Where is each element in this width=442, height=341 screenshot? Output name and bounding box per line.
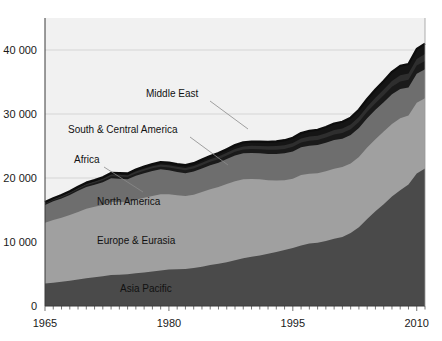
y-tick-label: 20 000 [3,172,37,184]
y-tick-label: 10 000 [3,236,37,248]
series-label-asia-pacific: Asia Pacific [120,283,172,294]
series-label-africa: Africa [74,154,100,165]
series-label-europe-eurasia: Europe & Eurasia [97,235,176,246]
x-tick-label: 2010 [404,317,428,329]
x-tick-label: 1965 [33,317,57,329]
series-label-middle-east: Middle East [146,88,198,99]
series-label-south-central-america: South & Central America [68,124,178,135]
y-tick-label: 0 [31,300,37,312]
chart-canvas: 010 00020 00030 00040 000196519801995201… [0,0,442,341]
y-tick-label: 40 000 [3,44,37,56]
y-tick-label: 30 000 [3,108,37,120]
series-label-north-america: North America [97,196,161,207]
x-tick-label: 1995 [281,317,305,329]
x-tick-label: 1980 [157,317,181,329]
stacked-area-chart: 010 00020 00030 00040 000196519801995201… [0,0,442,341]
